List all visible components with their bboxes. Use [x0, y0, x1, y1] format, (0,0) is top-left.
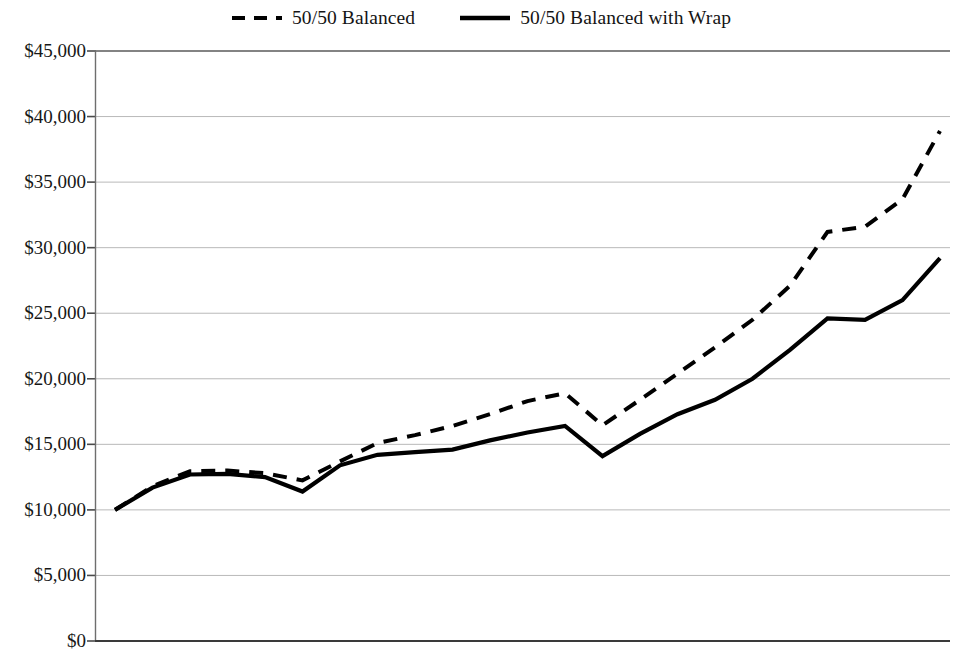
line-chart: 50/50 Balanced 50/50 Balanced with Wrap … — [0, 0, 962, 651]
y-axis-ticks — [87, 51, 96, 641]
series-line-balanced — [115, 131, 940, 510]
plot-area — [0, 0, 962, 651]
gridlines — [96, 51, 950, 575]
